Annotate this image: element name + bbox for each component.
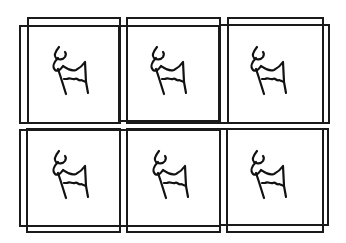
goat-icon — [148, 44, 192, 102]
goat-icon — [248, 44, 292, 102]
goat-icon — [248, 148, 292, 206]
goat-icon — [50, 148, 94, 206]
goat-icon — [50, 44, 94, 102]
goat-icon — [150, 148, 194, 206]
